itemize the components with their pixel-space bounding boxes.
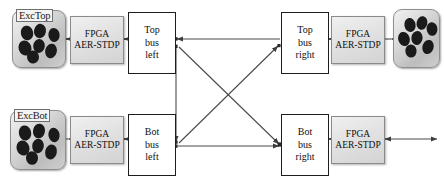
- bus-label-line3: right: [296, 49, 315, 62]
- bus-block-top-left[interactable]: Top bus left: [128, 12, 176, 74]
- bus-label-line1: Top: [297, 24, 312, 37]
- fpga-label-line2: AER-STDP: [335, 40, 380, 52]
- bus-block-bot-left[interactable]: Bot bus left: [128, 114, 176, 176]
- bus-label-line2: bus: [145, 139, 159, 152]
- wire-junctions: [174, 37, 281, 148]
- fpga-label-line1: FPGA: [346, 129, 370, 141]
- fpga-label-line2: AER-STDP: [335, 140, 380, 152]
- network-diagram: ExcTop ExcBot: [0, 0, 444, 182]
- bus-label-line1: Bot: [145, 126, 159, 139]
- fpga-block-top-right[interactable]: FPGA AER-STDP: [331, 16, 385, 64]
- neuron-cluster-exc-top-left[interactable]: ExcTop: [12, 10, 66, 68]
- bus-label-line1: Bot: [298, 126, 312, 139]
- bus-block-top-right[interactable]: Top bus right: [281, 12, 329, 74]
- bus-label-line3: right: [296, 151, 315, 164]
- fpga-block-bot-right[interactable]: FPGA AER-STDP: [331, 116, 385, 164]
- wire-diagonal-topleft-botright: [179, 47, 279, 144]
- neuron-cluster-exc-top-right[interactable]: [393, 9, 440, 68]
- fpga-label-line1: FPGA: [85, 29, 109, 41]
- fpga-label-line2: AER-STDP: [74, 40, 119, 52]
- bus-label-line2: bus: [298, 37, 312, 50]
- fpga-label-line1: FPGA: [346, 29, 370, 41]
- bus-label-line2: bus: [145, 37, 159, 50]
- fpga-label-line2: AER-STDP: [74, 140, 119, 152]
- cluster-label-excbot: ExcBot: [14, 109, 50, 122]
- fpga-block-top-left[interactable]: FPGA AER-STDP: [70, 16, 124, 64]
- fpga-label-line1: FPGA: [85, 129, 109, 141]
- cluster-label-exctop: ExcTop: [16, 9, 53, 22]
- bus-label-line3: left: [145, 151, 158, 164]
- wire-diagonal-botleft-topright: [179, 46, 278, 143]
- bus-label-line2: bus: [298, 139, 312, 152]
- neuron-dots: [394, 10, 439, 67]
- bus-block-bot-right[interactable]: Bot bus right: [281, 114, 329, 176]
- neuron-cluster-exc-bot-left[interactable]: ExcBot: [10, 110, 66, 170]
- bus-label-line1: Top: [144, 24, 159, 37]
- fpga-block-bot-left[interactable]: FPGA AER-STDP: [70, 116, 124, 164]
- bus-label-line3: left: [145, 49, 158, 62]
